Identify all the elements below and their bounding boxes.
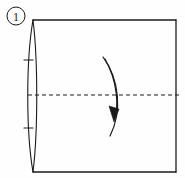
origami-diagram-svg: 1 (0, 0, 185, 178)
step-number-label: 1 (13, 10, 19, 24)
origami-figure-container: 1 (0, 0, 185, 178)
